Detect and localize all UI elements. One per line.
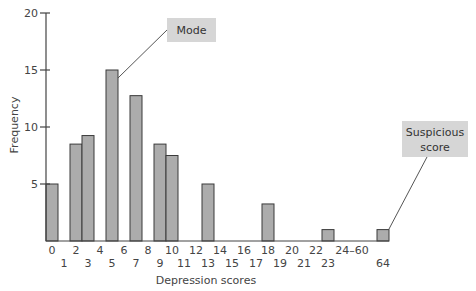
x-tick-label: 9 [157, 257, 164, 270]
x-tick-label: 0 [49, 244, 56, 257]
mode-callout-label: Mode [177, 24, 207, 37]
x-tick-label: 11 [177, 257, 191, 270]
x-tick-label: 5 [109, 257, 116, 270]
bar-7 [130, 96, 142, 241]
bar-64 [377, 230, 389, 241]
x-tick-label: 23 [321, 257, 335, 270]
y-axis-title: Frequency [8, 96, 21, 153]
x-tick-label: 4 [97, 244, 104, 257]
x-tick-label: 21 [297, 257, 311, 270]
mode-leader-line [118, 29, 168, 78]
x-tick-label: 8 [145, 244, 152, 257]
axes-group [46, 13, 389, 241]
y-tick-label: 10 [24, 121, 38, 134]
y-tick-label: 5 [31, 178, 38, 191]
bar-2 [70, 144, 82, 241]
x-tick-label: 1 [61, 257, 68, 270]
mode-callout: Mode [118, 18, 216, 78]
bar-3 [82, 136, 94, 241]
x-tick-label: 2 [73, 244, 80, 257]
bars-group [46, 70, 389, 241]
x-tick-label: 15 [225, 257, 239, 270]
x-axis-title: Depression scores [156, 274, 257, 287]
x-tick-label: 16 [237, 244, 251, 257]
bar-5 [106, 70, 118, 241]
suspicious-callout-line1: Suspicious [406, 126, 465, 139]
x-tick-label: 17 [249, 257, 263, 270]
y-tick-label: 20 [24, 7, 38, 20]
x-tick-label: 6 [121, 244, 128, 257]
x-tick-label: 19 [273, 257, 287, 270]
x-tick-label: 14 [213, 244, 227, 257]
suspicious-leader-line [389, 157, 427, 229]
x-tick-label: 22 [309, 244, 323, 257]
x-tick-label: 10 [165, 244, 179, 257]
x-tick-label: 64 [376, 257, 390, 270]
x-tick-label: 20 [285, 244, 299, 257]
depression-score-histogram: 5101520 024681012141618202224–6013579111… [0, 0, 476, 291]
bar-9 [154, 144, 166, 241]
suspicious-score-callout: Suspicious score [389, 121, 468, 229]
y-tick-label: 15 [24, 64, 38, 77]
bar-0 [46, 184, 58, 241]
x-tick-label: 24–60 [335, 244, 369, 257]
bar-18 [262, 204, 274, 241]
suspicious-callout-line2: score [420, 141, 450, 154]
x-tick-label: 12 [189, 244, 203, 257]
x-tick-label: 3 [85, 257, 92, 270]
x-tick-labels-group: 024681012141618202224–601357911131517192… [49, 244, 391, 270]
x-tick-label: 18 [261, 244, 275, 257]
x-tick-label: 7 [133, 257, 140, 270]
bar-10 [166, 156, 178, 242]
bar-13 [202, 184, 214, 241]
bar-23 [322, 230, 334, 241]
x-tick-label: 13 [201, 257, 215, 270]
